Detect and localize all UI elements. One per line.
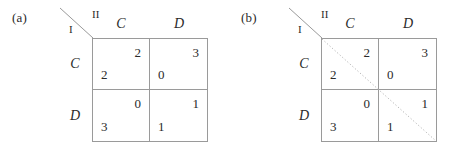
matrix-corner-header-a: II I — [58, 6, 96, 40]
matrix-corner-header-b: II I — [287, 6, 325, 40]
cell-cc-column-payoff-a: 2 — [135, 46, 142, 59]
cell-cd-row-payoff-b: 0 — [387, 68, 394, 81]
matrix-cell-cc-a: 2 2 — [93, 39, 150, 90]
matrix-cell-cd-a: 3 0 — [150, 39, 207, 90]
payoff-matrix-panel-a: (a) II I C D C D 2 2 3 0 0 3 1 1 — [0, 0, 229, 150]
matrix-cell-dd-a: 1 1 — [150, 90, 207, 141]
cell-dd-row-payoff-a: 1 — [158, 120, 165, 133]
cell-dd-column-payoff-b: 1 — [422, 97, 429, 110]
column-header-c-a: C — [92, 16, 150, 32]
panel-label-a: (a) — [12, 10, 27, 26]
cell-dc-row-payoff-b: 3 — [330, 120, 337, 133]
payoff-matrix-panel-b: (b) II I C D C D 2 2 3 0 0 3 1 1 — [229, 0, 458, 150]
row-header-d-a: D — [62, 90, 88, 142]
payoff-matrix-grid-b: 2 2 3 0 0 3 1 1 — [321, 38, 437, 142]
matrix-cell-dd-b: 1 1 — [379, 90, 436, 141]
column-header-c-b: C — [321, 16, 379, 32]
cell-dc-row-payoff-a: 3 — [101, 120, 108, 133]
row-header-c-b: C — [291, 38, 317, 90]
matrix-cell-cd-b: 3 0 — [379, 39, 436, 90]
matrix-cell-cc-b: 2 2 — [322, 39, 379, 90]
matrix-cell-dc-b: 0 3 — [322, 90, 379, 141]
row-header-c-a: C — [62, 38, 88, 90]
row-player-label-b: I — [298, 24, 302, 35]
cell-dc-column-payoff-a: 0 — [135, 97, 142, 110]
cell-cc-row-payoff-b: 2 — [330, 68, 337, 81]
cell-cd-row-payoff-a: 0 — [158, 68, 165, 81]
row-player-label-a: I — [69, 24, 73, 35]
payoff-matrix-grid-a: 2 2 3 0 0 3 1 1 — [92, 38, 208, 142]
row-header-d-b: D — [291, 90, 317, 142]
cell-cd-column-payoff-a: 3 — [193, 46, 200, 59]
cell-dc-column-payoff-b: 0 — [364, 97, 371, 110]
cell-cc-row-payoff-a: 2 — [101, 68, 108, 81]
matrix-cell-dc-a: 0 3 — [93, 90, 150, 141]
cell-dd-column-payoff-a: 1 — [193, 97, 200, 110]
cell-cc-column-payoff-b: 2 — [364, 46, 371, 59]
column-header-d-b: D — [379, 16, 437, 32]
column-header-d-a: D — [150, 16, 208, 32]
cell-cd-column-payoff-b: 3 — [422, 46, 429, 59]
cell-dd-row-payoff-b: 1 — [387, 120, 394, 133]
panel-label-b: (b) — [241, 10, 257, 26]
